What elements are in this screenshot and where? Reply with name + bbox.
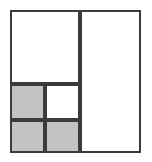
- cell-right-tall-white: [80, 10, 141, 153]
- cell-bottom-left-gray: [10, 120, 45, 153]
- cell-middle-right-white: [45, 84, 80, 120]
- rectangle-subdivision-diagram: [0, 0, 152, 162]
- cell-bottom-right-gray: [45, 120, 80, 153]
- cell-top-left-large-white: [10, 10, 80, 84]
- cell-middle-left-gray: [10, 84, 45, 120]
